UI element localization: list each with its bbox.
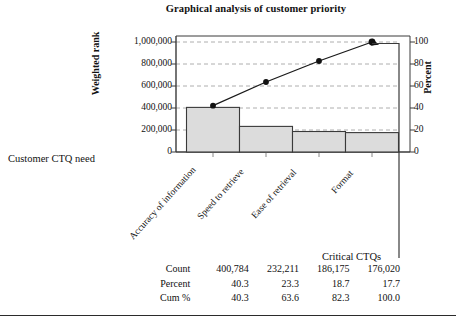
pareto-data-table: Count 400,784 232,211 186,175 176,020 Pe… bbox=[140, 262, 400, 306]
table-cell-cum-3: 82.3 bbox=[299, 291, 349, 306]
table-cell-cum-2: 63.6 bbox=[249, 291, 299, 306]
table-cell-count-2: 232,211 bbox=[249, 262, 299, 277]
category-label-ease-of-retrieval: Ease of retrieval bbox=[249, 167, 298, 220]
pareto-chart-figure: Graphical analysis of customer priority … bbox=[0, 0, 456, 322]
table-row-label-cum-percent: Cum % bbox=[140, 291, 198, 306]
category-label-speed-to-retrieve: Speed to retrieve bbox=[195, 167, 246, 222]
table-cell-percent-3: 18.7 bbox=[299, 277, 349, 292]
table-cell-count-4: 176,020 bbox=[350, 262, 400, 277]
table-row: Count 400,784 232,211 186,175 176,020 bbox=[140, 262, 400, 277]
table-cell-count-3: 186,175 bbox=[299, 262, 349, 277]
table-row-label-count: Count bbox=[140, 262, 198, 277]
table-cell-cum-1: 40.3 bbox=[198, 291, 248, 306]
category-label-format: Format bbox=[329, 168, 355, 195]
critical-ctqs-annotation: Critical CTQs bbox=[322, 251, 381, 262]
table-row: Cum % 40.3 63.6 82.3 100.0 bbox=[140, 291, 400, 306]
table-row: Percent 40.3 23.3 18.7 17.7 bbox=[140, 277, 400, 292]
table-cell-count-1: 400,784 bbox=[198, 262, 248, 277]
bottom-divider bbox=[0, 315, 456, 316]
table-cell-cum-4: 100.0 bbox=[350, 291, 400, 306]
table-cell-percent-1: 40.3 bbox=[198, 277, 248, 292]
category-label-accuracy-of-information: Accuracy of information bbox=[127, 165, 197, 241]
table-cell-percent-2: 23.3 bbox=[249, 277, 299, 292]
table-cell-percent-4: 17.7 bbox=[350, 277, 400, 292]
table-row-label-percent: Percent bbox=[140, 277, 198, 292]
